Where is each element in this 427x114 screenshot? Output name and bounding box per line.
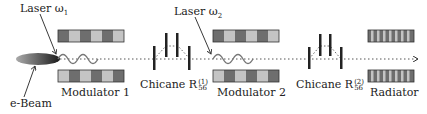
chicane1-label: Chicane R(1)56 [140, 79, 208, 92]
radiator-label: Radiator [370, 87, 419, 98]
modulator2 [213, 30, 279, 82]
radiator-top-magnets [368, 30, 414, 42]
modulator1-bottom-magnets [58, 70, 124, 82]
modulator1 [58, 30, 124, 82]
modulator1-top-magnets [58, 30, 124, 42]
chicane2 [308, 34, 343, 69]
chicane1 [153, 33, 191, 70]
laser1-arrow [40, 14, 56, 54]
ebeam-arrow [24, 66, 35, 97]
modulator2-top-magnets [213, 30, 279, 42]
chicane2-label: Chicane R(2)56 [296, 79, 364, 92]
laser2-wave [213, 55, 253, 64]
laser2-label: Laser ω2 [174, 6, 222, 20]
radiator [368, 30, 414, 82]
laser2-arrow [195, 17, 211, 54]
laser1-label: Laser ω1 [20, 3, 68, 17]
modulator2-bottom-magnets [213, 70, 279, 82]
radiator-bottom-magnets [368, 70, 414, 82]
electron-bunch [16, 53, 60, 65]
ebeam-label: e-Beam [10, 98, 52, 109]
modulator1-label: Modulator 1 [61, 87, 130, 98]
modulator2-label: Modulator 2 [217, 87, 286, 98]
